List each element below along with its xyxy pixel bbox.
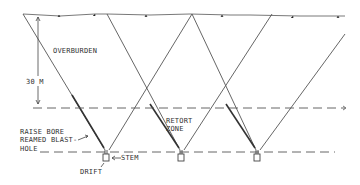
ground-surface-line bbox=[23, 14, 345, 16]
raise-bore-label-line2: REAMED BLAST- bbox=[20, 136, 77, 144]
drift-3 bbox=[254, 154, 260, 161]
overburden-label: OVERBURDEN bbox=[53, 47, 97, 55]
blasthole-lines bbox=[23, 14, 345, 150]
blasthole-leader-arrow bbox=[78, 135, 88, 140]
retort-zone-label-line2: ZONE bbox=[166, 125, 184, 133]
drift-2 bbox=[178, 154, 184, 161]
raise-bore-label-line1: RAISE BORE bbox=[20, 128, 64, 136]
stem-leader-arrow bbox=[112, 156, 121, 160]
drift-leader-arrow bbox=[101, 163, 104, 167]
drift-1 bbox=[103, 154, 109, 161]
retort-zone-label-line1: RETORT bbox=[166, 117, 193, 125]
raise-bore-segments bbox=[72, 95, 255, 148]
stem-label: STEM bbox=[121, 154, 139, 162]
drift-label: DRIFT bbox=[80, 168, 102, 176]
depth-label: 30 M bbox=[26, 78, 44, 86]
depth-arrow bbox=[36, 17, 40, 104]
retort-diagram bbox=[0, 0, 360, 185]
raise-bore-label-line3: HOLE bbox=[20, 145, 38, 153]
